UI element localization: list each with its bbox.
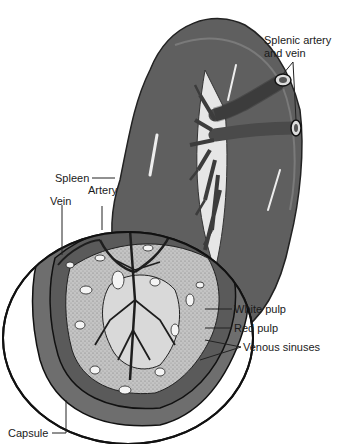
label-capsule: Capsule (8, 427, 48, 440)
label-venous-sinuses: Venous sinuses (243, 341, 320, 354)
label-splenic-vessels-line1: Splenic artery (264, 34, 331, 47)
label-splenic-vessels-line2: and vein (264, 47, 306, 60)
label-spleen: Spleen (55, 172, 89, 185)
label-white-pulp: White pulp (234, 303, 286, 316)
label-red-pulp: Red pulp (234, 322, 278, 335)
spleen-diagram: Splenic artery and vein Spleen Artery Ve… (0, 0, 338, 444)
label-vein: Vein (50, 195, 71, 208)
spleen-illustration (0, 0, 338, 444)
label-artery: Artery (88, 184, 117, 197)
